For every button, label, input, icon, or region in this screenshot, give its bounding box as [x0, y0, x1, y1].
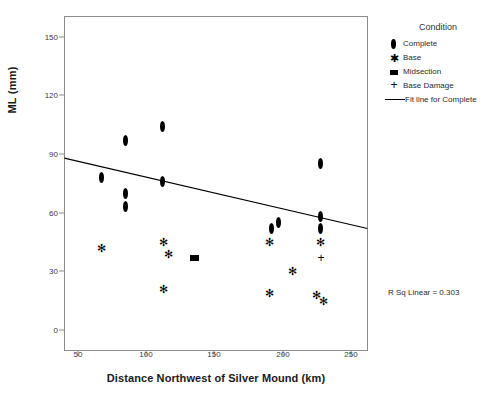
legend-item-base-damage[interactable]: + Base Damage — [385, 79, 483, 93]
legend-item-label: Fit line for Complete — [405, 93, 477, 107]
y-axis-ticks — [59, 37, 64, 330]
legend-item-midsection[interactable]: Midsection — [385, 65, 483, 79]
y-tick-label: 90 — [32, 150, 58, 159]
line-marker-icon — [385, 93, 405, 107]
scatter-plot-figure: ✻✻✻✻✻✻✻✻✻✻+ 150 120 90 60 30 0 50 100 15… — [0, 0, 483, 408]
legend: Condition Complete ✱ Base Midsection + B… — [385, 22, 483, 107]
x-tick-label: 150 — [194, 350, 234, 359]
y-tick-label: 30 — [32, 267, 58, 276]
plot-frame — [65, 17, 368, 351]
x-tick-label: 200 — [263, 350, 303, 359]
legend-item-label: Complete — [403, 37, 437, 51]
square-marker-icon — [385, 65, 403, 79]
fit-line — [64, 158, 367, 228]
legend-item-complete[interactable]: Complete — [385, 37, 483, 51]
x-axis-title: Distance Northwest of Silver Mound (km) — [64, 372, 368, 384]
y-tick-label: 60 — [32, 209, 58, 218]
diamond-marker-icon — [385, 37, 403, 51]
y-axis-title: ML (mm) — [6, 30, 18, 150]
x-tick-label: 250 — [331, 350, 371, 359]
x-tick-label: 100 — [126, 350, 166, 359]
y-axis-tick-labels: 150 120 90 60 30 0 — [28, 0, 58, 408]
legend-item-fit-line[interactable]: Fit line for Complete — [385, 93, 483, 107]
legend-item-base[interactable]: ✱ Base — [385, 51, 483, 65]
legend-item-label: Base Damage — [403, 79, 454, 93]
plus-marker-icon: + — [385, 79, 403, 93]
y-tick-label: 120 — [32, 91, 58, 100]
r-squared-annotation: R Sq Linear = 0.303 — [388, 288, 459, 297]
legend-item-label: Midsection — [403, 65, 441, 79]
y-tick-label: 150 — [32, 33, 58, 42]
y-tick-label: 0 — [32, 326, 58, 335]
x-tick-label: 50 — [58, 350, 98, 359]
x-axis-tick-labels: 50 100 150 200 250 — [0, 350, 483, 364]
star-marker-icon: ✱ — [385, 51, 403, 65]
legend-item-label: Base — [403, 51, 421, 65]
legend-title: Condition — [393, 22, 483, 32]
